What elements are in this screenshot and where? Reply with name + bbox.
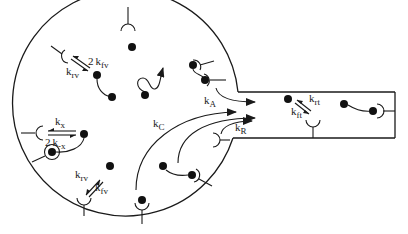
kinetics-diagram: 2kfv krv kA kC kR: [0, 0, 408, 234]
label-2k-minus-x: 2k-x: [45, 136, 66, 151]
label-kA: kA: [204, 94, 217, 109]
tether-channel: [348, 105, 372, 111]
ligand-dot-left1: [80, 130, 88, 138]
label-krv-top: krv: [66, 65, 79, 80]
cell-boundary: [13, 0, 238, 216]
ligand-dot-lower-left: [106, 162, 114, 170]
ligand-dot-tl1: [93, 71, 101, 79]
label-2kfv-top: 2kfv: [88, 55, 109, 70]
receptor-top-empty-icon: [121, 7, 135, 31]
label-kR: kR: [235, 121, 247, 136]
receptor-lower-left-empty-icon: [77, 198, 91, 216]
bound-receptor-bottom-right-icon: [188, 169, 212, 186]
receptor-channel-empty-icon: [306, 120, 320, 138]
tether-bound-pair: [193, 69, 203, 77]
diffusion-arrow-icon: [138, 68, 163, 92]
receptor-top-left-empty-icon: [51, 46, 68, 63]
bound-receptor-lower-icon: [201, 74, 226, 86]
ligand-dot-bc1: [159, 162, 167, 170]
tether-bc: [166, 170, 188, 175]
ligand-dot-channel2: [340, 100, 348, 108]
bound-receptor-bottom-icon: [135, 196, 149, 224]
arrow-kA-icon: [216, 88, 255, 102]
label-krv-bottom: krv: [75, 168, 88, 183]
label-krt: krt: [309, 92, 320, 107]
ligand-dot-top: [128, 43, 136, 51]
ligand-dot-tl2: [108, 93, 116, 101]
arrow-kC-inner-icon: [178, 118, 255, 163]
label-kx: kx: [55, 115, 66, 130]
receptor-left-empty-icon: [21, 126, 43, 140]
ligand-dot-center: [141, 91, 149, 99]
label-kC: kC: [153, 117, 165, 132]
bound-receptor-channel-icon: [369, 104, 395, 118]
receptor-opening-empty-icon: [213, 133, 230, 147]
tether-tl: [97, 79, 111, 97]
arrow-kC-outer-icon: [136, 112, 236, 190]
bound-receptor-upper-icon: [189, 60, 214, 70]
ligand-dot-channel1: [284, 95, 292, 103]
